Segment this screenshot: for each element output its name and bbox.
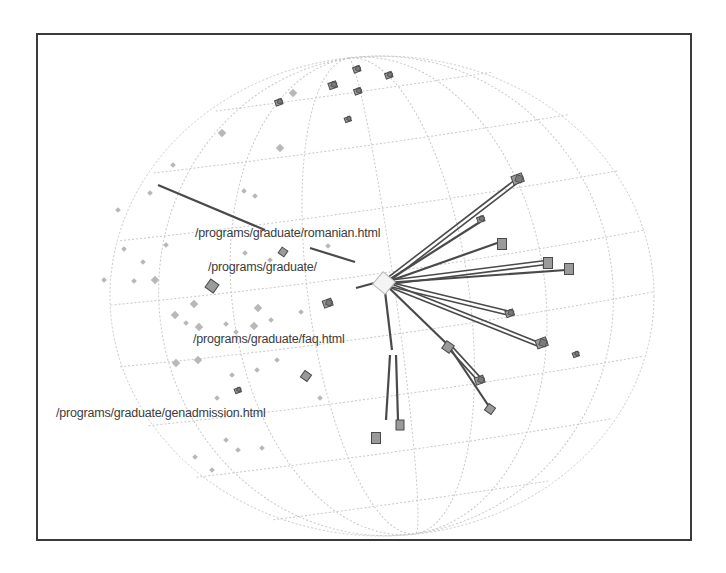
- link-edge: [384, 222, 480, 283]
- distant-node: [209, 467, 215, 473]
- distant-node: [325, 243, 331, 249]
- distant-node: [194, 356, 202, 364]
- distant-node: [163, 242, 169, 248]
- page-node[interactable]: [544, 258, 553, 269]
- page-node[interactable]: [300, 370, 311, 381]
- distant-node: [183, 320, 189, 326]
- distant-node: [190, 300, 198, 308]
- page-node[interactable]: [498, 239, 507, 250]
- label-faq[interactable]: /programs/graduate/faq.html: [193, 332, 345, 346]
- page-node[interactable]: [396, 420, 404, 430]
- distant-node: [195, 323, 203, 331]
- distant-node: [241, 188, 247, 194]
- distant-node: [218, 129, 226, 137]
- link-edge: [386, 355, 390, 420]
- distant-node: [131, 278, 137, 284]
- distant-node: [101, 277, 107, 283]
- distant-node: [268, 317, 274, 323]
- distant-node: [298, 309, 304, 315]
- distant-node: [223, 437, 229, 443]
- distant-node: [250, 322, 258, 330]
- distant-node: [214, 395, 220, 401]
- page-node[interactable]: [205, 279, 219, 293]
- distant-node: [252, 193, 258, 199]
- page-node[interactable]: [511, 173, 524, 185]
- distant-node: [276, 144, 284, 152]
- link-edge: [158, 185, 265, 230]
- distant-node: [242, 250, 248, 256]
- page-node[interactable]: [565, 264, 574, 275]
- page-node[interactable]: [372, 433, 381, 444]
- distant-node: [172, 359, 180, 367]
- page-node[interactable]: [354, 88, 362, 96]
- link-edges: [158, 178, 566, 420]
- link-edge: [385, 281, 541, 343]
- link-edge: [384, 281, 508, 311]
- distant-node: [115, 207, 121, 213]
- link-edge: [383, 285, 539, 347]
- page-node[interactable]: [234, 387, 241, 394]
- distant-node: [170, 162, 176, 168]
- distant-node: [317, 395, 323, 401]
- distant-node: [254, 304, 262, 312]
- distant-node: [254, 367, 260, 373]
- page-node[interactable]: [275, 99, 283, 107]
- distant-node: [289, 89, 297, 97]
- page-node[interactable]: [278, 247, 288, 257]
- hyperbolic-site-graph[interactable]: [0, 0, 726, 573]
- label-romanian[interactable]: /programs/graduate/romanian.html: [195, 226, 380, 240]
- distant-node: [229, 372, 235, 378]
- distant-node: [259, 445, 265, 451]
- page-node[interactable]: [353, 66, 361, 74]
- page-node[interactable]: [484, 403, 495, 414]
- page-node[interactable]: [322, 298, 333, 308]
- distant-node: [140, 259, 146, 265]
- link-edge: [384, 270, 566, 283]
- link-edge: [396, 355, 398, 420]
- distant-node: [147, 190, 153, 196]
- page-node[interactable]: [344, 116, 351, 123]
- page-node[interactable]: [477, 216, 485, 224]
- page-node[interactable]: [474, 375, 485, 385]
- distant-node: [274, 357, 280, 363]
- page-node[interactable]: [572, 351, 579, 358]
- distant-node: [121, 246, 127, 252]
- distant-node: [223, 321, 229, 327]
- page-node[interactable]: [328, 81, 338, 90]
- label-genadmission[interactable]: /programs/graduate/genadmission.html: [56, 406, 266, 420]
- distant-node: [235, 447, 241, 453]
- distant-node: [151, 276, 159, 284]
- link-edge: [449, 344, 481, 379]
- sphere-grid: [110, 26, 654, 565]
- distant-node: [192, 454, 198, 460]
- link-edge: [448, 345, 490, 408]
- label-graduate[interactable]: /programs/graduate/: [208, 260, 317, 274]
- distant-node: [171, 311, 179, 319]
